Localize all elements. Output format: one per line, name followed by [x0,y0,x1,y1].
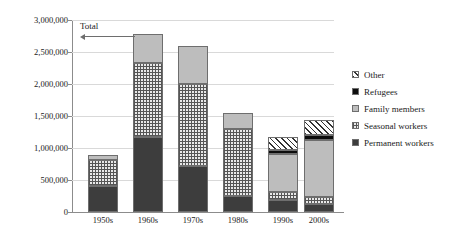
bar-segment-family-members [88,155,118,160]
y-tick-label: 500,000 [2,176,68,185]
y-axis-labels: 3,000,000 2,500,000 2,000,000 1,500,000 … [0,20,68,212]
legend-item-family-members[interactable]: Family members [352,100,434,117]
refugees-swatch-icon [352,88,359,95]
total-annotation: Total [80,21,135,40]
bar-segment-other [304,120,334,135]
plot-area [72,20,334,212]
legend-item-seasonal-workers[interactable]: Seasonal workers [352,117,434,134]
legend-label: Permanent workers [364,138,434,148]
bar-segment-permanent-workers [178,166,208,212]
legend-item-permanent-workers[interactable]: Permanent workers [352,134,434,151]
legend-label: Family members [364,104,425,114]
other-swatch-icon [352,71,359,78]
bar-segment-refugees [304,135,334,140]
total-annotation-label: Total [80,21,135,31]
bar-2000s[interactable] [304,120,334,212]
bar-segment-permanent-workers [88,186,118,212]
arrow-shaft [83,36,135,37]
legend-label: Seasonal workers [364,121,427,131]
bar-segment-seasonal-workers [268,192,298,200]
bar-segment-permanent-workers [223,196,253,212]
legend-label: Other [364,70,385,80]
permanent-workers-swatch-icon [352,139,359,146]
bar-segment-seasonal-workers [133,63,163,137]
y-tick-label: 1,500,000 [2,112,68,121]
y-tick-label: 1,000,000 [2,144,68,153]
bar-1980s[interactable] [223,113,253,212]
chart-legend: Other Refugees Family members Seasonal w… [352,66,434,151]
legend-label: Refugees [364,87,398,97]
y-tick-label: 2,500,000 [2,48,68,57]
bar-segment-family-members [178,46,208,84]
bar-segment-other [268,137,298,150]
arrow-head [80,34,85,40]
bar-segment-seasonal-workers [88,160,118,186]
bar-segment-family-members [304,140,334,196]
bar-1970s[interactable] [178,46,208,212]
y-tick-label: 2,000,000 [2,80,68,89]
bar-1990s[interactable] [268,137,298,212]
bar-segment-family-members [268,154,298,191]
bar-1960s[interactable] [133,34,163,212]
chart-figure: 3,000,000 2,500,000 2,000,000 1,500,000 … [0,0,471,238]
bar-1950s[interactable] [88,155,118,212]
bar-segment-permanent-workers [268,200,298,212]
seasonal-workers-swatch-icon [352,122,359,129]
bar-segment-seasonal-workers [304,197,334,205]
legend-item-other[interactable]: Other [352,66,434,83]
bar-segment-family-members [133,34,163,63]
bar-segment-seasonal-workers [178,84,208,166]
family-members-swatch-icon [352,105,359,112]
x-tick-label-2000s: 2000s [289,215,349,225]
bar-segment-permanent-workers [133,137,163,212]
bar-segment-family-members [223,113,253,128]
x-axis-line [72,212,344,213]
y-tick-label: 0 [2,208,68,217]
bar-segment-permanent-workers [304,204,334,212]
bar-segment-refugees [268,150,298,155]
total-arrow-icon [80,33,135,40]
legend-item-refugees[interactable]: Refugees [352,83,434,100]
bar-segment-seasonal-workers [223,129,253,196]
y-tick-label: 3,000,000 [2,16,68,25]
